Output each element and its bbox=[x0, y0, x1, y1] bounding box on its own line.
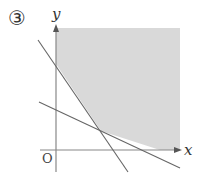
origin-label: O bbox=[42, 151, 53, 166]
diagram-container: ③ y x O bbox=[0, 0, 202, 181]
y-axis-label: y bbox=[51, 5, 61, 23]
x-axis-label: x bbox=[184, 141, 193, 159]
coordinate-plane: y x O bbox=[0, 0, 202, 181]
shaded-region bbox=[56, 28, 180, 150]
